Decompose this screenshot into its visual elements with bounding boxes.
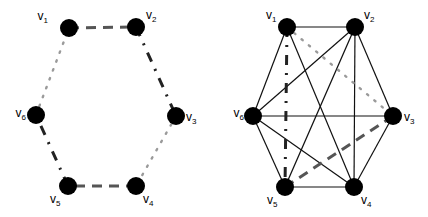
vertex-label-v3: v3 bbox=[186, 110, 197, 126]
vertex-label-v2: v2 bbox=[146, 8, 157, 24]
vertex-label-subscript: 5 bbox=[56, 199, 61, 208]
vertex-v1 bbox=[60, 19, 78, 37]
vertex-label-subscript: 1 bbox=[272, 15, 277, 24]
graph-diagram: v1v2v3v4v5v6 v1v2v3v4v5v6 bbox=[0, 0, 428, 217]
complete-graph: v1v2v3v4v5v6 bbox=[234, 8, 415, 209]
vertex-label-v1: v1 bbox=[266, 8, 277, 24]
edge-v2-v3-solid bbox=[355, 27, 393, 116]
vertex-label-subscript: 5 bbox=[273, 200, 278, 209]
vertex-v2 bbox=[127, 18, 145, 36]
edge-v2-v4-solid bbox=[354, 27, 355, 187]
vertex-v6 bbox=[244, 107, 262, 125]
vertex-label-v4: v4 bbox=[143, 192, 154, 208]
vertex-label-v4: v4 bbox=[361, 193, 372, 209]
cycle-graph-edges bbox=[36, 27, 176, 186]
vertex-label-v6: v6 bbox=[16, 106, 27, 122]
vertex-label-v6: v6 bbox=[234, 106, 245, 122]
cycle-graph-vertices: v1v2v3v4v5v6 bbox=[16, 8, 197, 208]
complete-graph-edges bbox=[253, 27, 393, 187]
edge-v1-v6-solid bbox=[253, 27, 287, 116]
vertex-label-v5: v5 bbox=[50, 192, 61, 208]
edge-v3-v4-dotted bbox=[136, 116, 176, 186]
vertex-label-subscript: 4 bbox=[367, 200, 372, 209]
edge-v1-v2-dashed bbox=[69, 27, 136, 28]
vertex-v3 bbox=[384, 107, 402, 125]
vertex-v1 bbox=[278, 18, 296, 36]
vertex-label-subscript: 6 bbox=[22, 113, 27, 122]
vertex-label-subscript: 4 bbox=[149, 199, 154, 208]
edge-v1-v5-dashdot bbox=[285, 27, 287, 187]
vertex-label-v2: v2 bbox=[364, 8, 375, 24]
vertex-label-v1: v1 bbox=[38, 9, 49, 25]
vertex-label-subscript: 3 bbox=[192, 117, 197, 126]
vertex-label-v3: v3 bbox=[404, 110, 415, 126]
vertex-v3 bbox=[167, 107, 185, 125]
edge-v5-v6-dashdot bbox=[36, 115, 68, 186]
vertex-label-subscript: 2 bbox=[152, 15, 157, 24]
vertex-v2 bbox=[346, 18, 364, 36]
vertex-label-v5: v5 bbox=[267, 193, 278, 209]
edge-v2-v3-dashdot bbox=[136, 27, 176, 116]
vertex-label-subscript: 6 bbox=[240, 113, 245, 122]
vertex-v5 bbox=[59, 177, 77, 195]
vertex-v6 bbox=[27, 106, 45, 124]
vertex-label-subscript: 3 bbox=[410, 117, 415, 126]
vertex-label-subscript: 2 bbox=[370, 15, 375, 24]
edge-v3-v4-solid bbox=[354, 116, 393, 187]
edge-v6-v1-dotted bbox=[36, 28, 69, 115]
vertex-v5 bbox=[276, 178, 294, 196]
cycle-graph: v1v2v3v4v5v6 bbox=[16, 8, 197, 208]
vertex-label-subscript: 1 bbox=[44, 16, 49, 25]
